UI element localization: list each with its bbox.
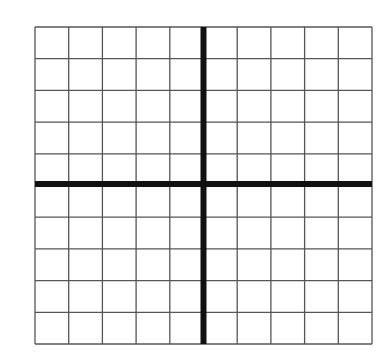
coordinate-grid-diagram: [0, 0, 386, 361]
axes: [35, 27, 372, 344]
grid-canvas: [0, 0, 386, 361]
